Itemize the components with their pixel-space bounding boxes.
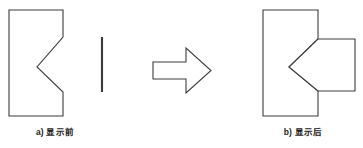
figure-screenshot: a) 显示前 b) 显示后 [0,0,363,148]
caption-before: a) 显示前 [24,126,86,138]
shape-notched-rectangle-before [9,10,63,116]
transformation-arrow-icon [153,48,211,93]
caption-after: b) 显示后 [272,126,334,138]
